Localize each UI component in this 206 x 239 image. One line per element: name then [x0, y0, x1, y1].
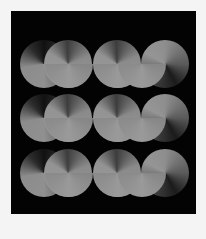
- half-circle-shape: [118, 64, 166, 88]
- artwork-canvas: [11, 11, 196, 214]
- half-circle-shape: [45, 118, 93, 142]
- wave-row-3: [11, 149, 196, 203]
- half-circle-shape: [118, 118, 166, 142]
- half-circle-shape: [45, 64, 93, 88]
- wave-row-1: [11, 40, 196, 94]
- wave-row-2: [11, 94, 196, 148]
- half-circle-shape: [45, 173, 93, 197]
- half-circle-shape: [118, 173, 166, 197]
